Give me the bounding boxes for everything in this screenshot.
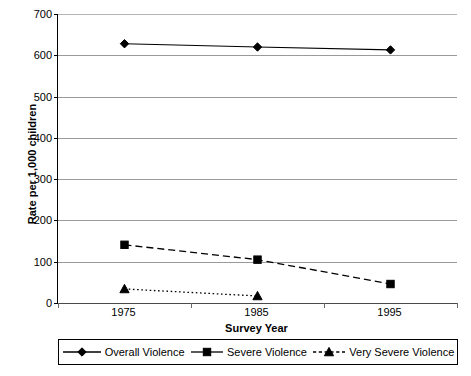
plot-area: 0100200300400500600700 — [57, 14, 456, 303]
data-point-marker — [120, 284, 129, 292]
x-axis-tick-label: 1985 — [244, 306, 268, 318]
y-axis-tick-label: 500 — [34, 91, 52, 103]
x-axis-tick-mark — [58, 303, 59, 308]
series-line — [125, 289, 258, 296]
data-point-marker — [120, 40, 128, 48]
data-point-marker — [253, 43, 261, 51]
x-axis-title: Survey Year — [57, 322, 456, 334]
x-axis-tick-mark — [457, 303, 458, 308]
legend-label: Overall Violence — [105, 346, 185, 358]
series-line — [125, 245, 391, 284]
legend-label: Very Severe Violence — [349, 346, 454, 358]
x-axis-tick-label: 1975 — [111, 306, 135, 318]
square-marker-icon — [190, 345, 224, 359]
gridline — [58, 303, 457, 304]
data-point-marker — [386, 46, 394, 54]
y-axis-tick-label: 0 — [46, 297, 52, 309]
data-point-marker — [387, 280, 394, 287]
chart-legend: Overall ViolenceSevere ViolenceVery Seve… — [58, 339, 458, 365]
diamond-marker-icon — [62, 345, 102, 359]
x-axis-tick-mark — [324, 303, 325, 308]
series-3 — [120, 284, 262, 299]
data-point-marker — [121, 241, 128, 248]
series-group — [58, 14, 457, 303]
y-axis-tick-label: 200 — [34, 214, 52, 226]
line-chart: Rate per 1,000 children 0100200300400500… — [0, 0, 471, 376]
data-point-marker — [253, 291, 262, 299]
legend-item[interactable]: Severe Violence — [190, 345, 307, 359]
legend-item[interactable]: Very Severe Violence — [312, 345, 454, 359]
y-axis-tick-label: 400 — [34, 132, 52, 144]
y-axis-tick-label: 700 — [34, 8, 52, 20]
x-axis-tick-label: 1995 — [377, 306, 401, 318]
y-axis-tick-label: 600 — [34, 49, 52, 61]
y-axis-tick-label: 300 — [34, 173, 52, 185]
series-1 — [120, 40, 394, 55]
triangle-marker-icon — [312, 345, 346, 359]
data-point-marker — [254, 256, 261, 263]
y-axis-tick-label: 100 — [34, 256, 52, 268]
series-2 — [121, 241, 394, 288]
x-axis-tick-mark — [191, 303, 192, 308]
legend-label: Severe Violence — [227, 346, 307, 358]
legend-item[interactable]: Overall Violence — [62, 345, 185, 359]
